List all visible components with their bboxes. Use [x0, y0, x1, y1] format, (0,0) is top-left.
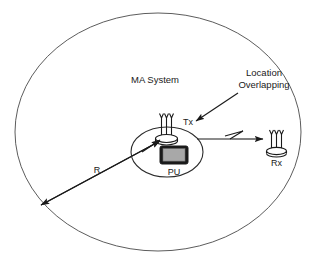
tx-node: Tx — [156, 114, 194, 146]
radius-indicator: R — [41, 141, 160, 205]
lightning-signal-icon — [225, 131, 243, 139]
annotation-line-2: Overlapping — [238, 79, 289, 90]
coverage-area-boundary — [15, 13, 301, 251]
radius-label: R — [94, 165, 101, 175]
wireless-network-diagram: R MA System Location Overlapping — [0, 0, 312, 268]
annotation-line-1: Location — [246, 67, 282, 78]
rx-node: Rx — [267, 130, 287, 168]
wireless-link — [197, 131, 263, 139]
ma-system-title: MA System — [131, 74, 179, 85]
pu-device: PU — [160, 146, 188, 177]
diagram-canvas: R MA System Location Overlapping — [0, 0, 312, 268]
rx-antenna-base-platform — [267, 147, 287, 154]
tx-pointer-arrow — [142, 140, 160, 152]
annotation-pointer-arrow — [196, 93, 238, 121]
pu-device-screen — [163, 149, 185, 162]
tx-label: Tx — [183, 117, 193, 127]
location-overlapping-annotation: Location Overlapping — [196, 67, 290, 121]
radius-arrow-inward — [41, 141, 160, 205]
pu-label: PU — [168, 167, 181, 177]
rx-label: Rx — [271, 158, 282, 168]
